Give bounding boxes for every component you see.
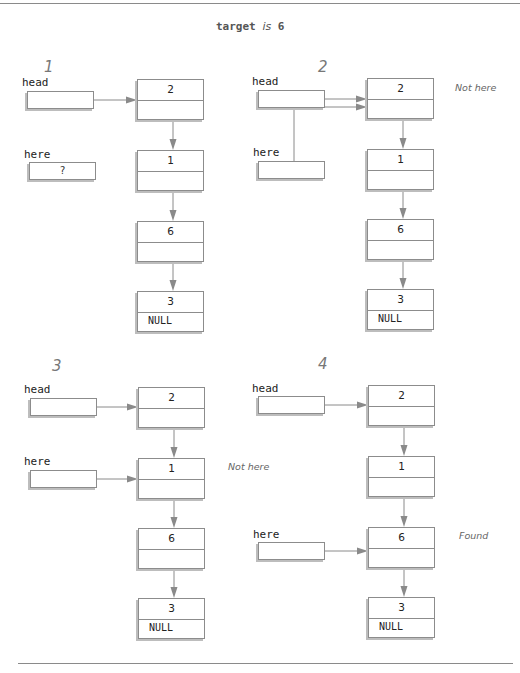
linked-list-search-diagram: target is 6 1headhere?2163NULL2headhere2…: [0, 0, 520, 673]
node-data-field: 2: [369, 386, 434, 407]
list-node-2: 2: [367, 78, 434, 119]
list-node-3: 3NULL: [368, 597, 435, 638]
bottom-rule: [18, 663, 513, 664]
node-data-field: 3: [139, 599, 204, 620]
here-pointer-label: here: [253, 146, 280, 159]
list-node-6: 6: [138, 528, 205, 569]
arrowhead-icon: [170, 280, 177, 291]
list-node-1: 1: [368, 456, 435, 497]
node-data-field: 1: [368, 150, 433, 171]
node-data-field: 6: [368, 220, 433, 241]
node-next-field: [374, 100, 433, 119]
node-next-field: [375, 407, 434, 426]
node-data-field: 1: [138, 151, 203, 172]
node-data-field: 6: [139, 529, 204, 550]
node-data-field: 3: [138, 292, 203, 313]
list-node-2: 2: [368, 385, 435, 426]
head-pointer-label: head: [22, 76, 49, 89]
node-data-field: 6: [369, 528, 434, 549]
here-pointer-box: [258, 161, 325, 179]
step-number: 1: [44, 58, 54, 76]
node-next-field: [145, 480, 204, 499]
arrowhead-icon: [127, 476, 138, 483]
here-pointer-value: ?: [30, 165, 95, 176]
arrowhead-icon: [170, 139, 177, 150]
head-pointer-box: [27, 91, 94, 109]
head-pointer-label: head: [252, 75, 279, 88]
head-pointer-box: [258, 396, 325, 414]
list-node-1: 1: [137, 150, 204, 191]
node-data-field: 2: [139, 388, 204, 409]
head-pointer-label: head: [252, 382, 279, 395]
arrowhead-icon: [401, 586, 408, 597]
node-next-field: NULL: [145, 620, 204, 639]
arrowhead-icon: [171, 587, 178, 598]
arrowhead-icon: [357, 548, 368, 555]
status-note: Not here: [455, 82, 496, 93]
node-next-field: [374, 171, 433, 190]
node-next-field: [145, 409, 204, 428]
here-pointer-label: here: [24, 148, 51, 161]
node-data-field: 6: [138, 222, 203, 243]
here-pointer-box: ?: [29, 162, 96, 180]
head-pointer-box: [30, 398, 97, 416]
arrowhead-icon: [400, 278, 407, 289]
list-node-3: 3NULL: [138, 598, 205, 639]
arrowhead-icon: [170, 210, 177, 221]
status-note: Not here: [228, 461, 269, 472]
status-note: Found: [459, 530, 488, 541]
list-node-3: 3NULL: [367, 289, 434, 330]
list-node-2: 2: [138, 387, 205, 428]
arrowhead-icon: [356, 104, 367, 111]
node-next-field: [144, 101, 203, 120]
node-next-field: [374, 241, 433, 260]
node-data-field: 1: [139, 459, 204, 480]
node-data-field: 3: [368, 290, 433, 311]
here-pointer-label: here: [24, 455, 51, 468]
step-number: 2: [318, 58, 328, 76]
step-number: 3: [52, 357, 62, 375]
arrowhead-icon: [357, 402, 368, 409]
step-number: 4: [318, 355, 328, 373]
head-pointer-box: [258, 90, 325, 108]
node-next-field: [144, 172, 203, 191]
node-data-field: 3: [369, 598, 434, 619]
list-node-3: 3NULL: [137, 291, 204, 332]
node-next-field: NULL: [144, 313, 203, 332]
node-next-field: [375, 549, 434, 568]
arrowhead-icon: [126, 97, 137, 104]
node-next-field: [375, 478, 434, 497]
arrowhead-icon: [400, 208, 407, 219]
arrowhead-icon: [401, 445, 408, 456]
arrowhead-icon: [171, 517, 178, 528]
node-next-field: NULL: [374, 311, 433, 330]
arrowhead-icon: [127, 404, 138, 411]
here-pointer-box: [30, 470, 97, 488]
arrowhead-icon: [171, 447, 178, 458]
arrowhead-icon: [401, 516, 408, 527]
node-next-field: [144, 243, 203, 262]
arrowhead-icon: [400, 138, 407, 149]
list-node-1: 1: [367, 149, 434, 190]
node-next-field: [145, 550, 204, 569]
node-next-field: NULL: [375, 619, 434, 638]
node-data-field: 2: [368, 79, 433, 100]
list-node-6: 6: [137, 221, 204, 262]
here-pointer-box: [258, 542, 325, 560]
head-pointer-label: head: [24, 383, 51, 396]
node-data-field: 2: [138, 80, 203, 101]
list-node-1: 1: [138, 458, 205, 499]
here-pointer-label: here: [253, 528, 280, 541]
list-node-6: 6: [368, 527, 435, 568]
node-data-field: 1: [369, 457, 434, 478]
list-node-6: 6: [367, 219, 434, 260]
list-node-2: 2: [137, 79, 204, 120]
arrowhead-icon: [356, 96, 367, 103]
